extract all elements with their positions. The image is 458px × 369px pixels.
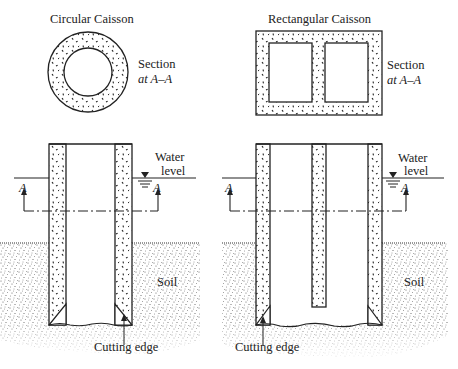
- rectangular-section-view: [256, 31, 382, 115]
- water-label-line2: level: [161, 164, 185, 178]
- circular-section-view: [48, 32, 128, 112]
- soil-label: Soil: [404, 275, 424, 289]
- cutting-edge-label: Cutting edge: [94, 340, 158, 354]
- cutting-edge-label: Cutting edge: [235, 340, 299, 354]
- water-level-symbol: [138, 172, 152, 187]
- soil-label: Soil: [157, 275, 177, 289]
- section-label-line1: Section: [138, 57, 176, 71]
- section-label-line1: Section: [387, 58, 425, 72]
- water-level-symbol: [386, 172, 400, 187]
- section-marker-a-right: A: [153, 181, 161, 195]
- water-label-line2: level: [404, 164, 428, 178]
- section-marker-a-left: A: [225, 181, 233, 195]
- section-label-line2: at A–A: [387, 73, 421, 87]
- section-marker-a-right: A: [401, 181, 409, 195]
- soil-left: [0, 243, 200, 354]
- rectangular-caisson-title: Rectangular Caisson: [268, 12, 371, 26]
- section-marker-a-left: A: [19, 181, 27, 195]
- section-label-line2: at A–A: [138, 72, 172, 86]
- circular-caisson-title: Circular Caisson: [50, 12, 134, 26]
- water-label-line1: Water: [155, 150, 185, 164]
- section-line-a-a: [21, 188, 161, 211]
- water-label-line1: Water: [398, 151, 428, 165]
